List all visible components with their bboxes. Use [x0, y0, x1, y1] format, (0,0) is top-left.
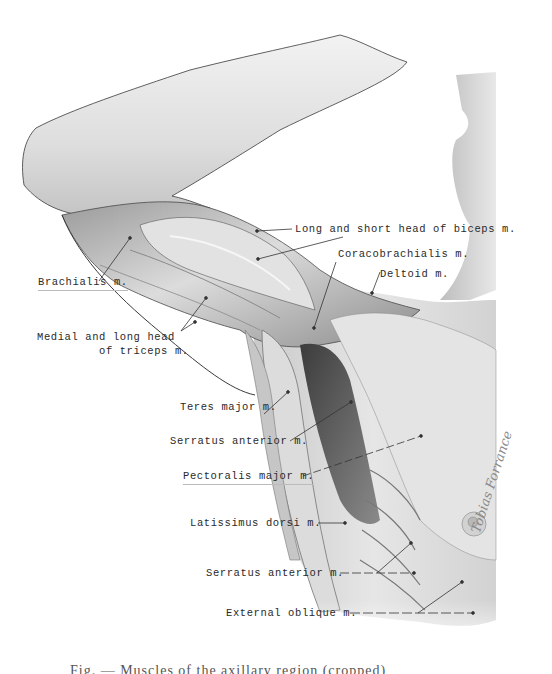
label-deltoid: Deltoid m. [380, 268, 449, 280]
label-latissimus-dorsi: Latissimus dorsi m. [190, 517, 321, 529]
label-external-oblique: External oblique m. [226, 607, 357, 619]
label-serratus-lower: Serratus anterior m. [206, 567, 344, 579]
label-teres-major: Teres major m. [180, 401, 277, 413]
figure-caption: Fig. — Muscles of the axillary region (c… [70, 660, 500, 674]
label-triceps-line2: of triceps m. [99, 345, 189, 357]
neck-skin [440, 72, 496, 300]
label-pectoralis-major: Pectoralis major m. [183, 470, 314, 485]
label-triceps-line1: Medial and long head [37, 331, 175, 343]
label-coracobrachialis: Coracobrachialis m. [338, 248, 469, 260]
label-biceps: Long and short head of biceps m. [295, 223, 516, 235]
label-serratus-upper: Serratus anterior m. [170, 435, 308, 447]
label-brachialis: Brachialis m. [38, 276, 128, 291]
forearm [23, 35, 408, 216]
